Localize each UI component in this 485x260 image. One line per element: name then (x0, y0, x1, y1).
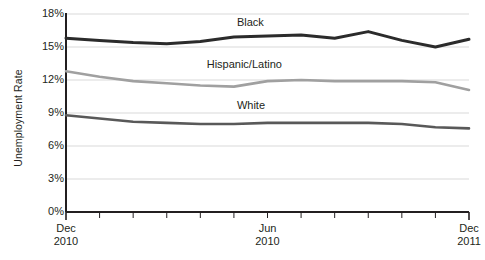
series-line-white (66, 115, 469, 128)
x-label-year: 2010 (228, 235, 308, 248)
x-axis-label-dec-2011: Dec2011 (429, 222, 485, 247)
series-line-black (66, 32, 469, 47)
x-label-month: Dec (26, 222, 106, 235)
series-label-black: Black (234, 16, 267, 28)
x-label-year: 2011 (429, 235, 485, 248)
series-line-hispanic-latino (66, 71, 469, 90)
series-label-white: White (234, 99, 268, 111)
x-label-month: Dec (429, 222, 485, 235)
x-axis-label-dec-2010: Dec2010 (26, 222, 106, 247)
x-label-year: 2010 (26, 235, 106, 248)
x-axis-label-jun-2010: Jun2010 (228, 222, 308, 247)
x-label-month: Jun (228, 222, 308, 235)
series-label-hispanic-latino: Hispanic/Latino (204, 58, 285, 70)
